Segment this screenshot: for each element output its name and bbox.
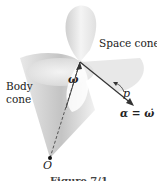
alpha-label: α = ω̇ — [120, 108, 154, 119]
space-cone-label: Space cone — [99, 38, 157, 49]
figure-caption: Figure 7/1 — [50, 176, 108, 181]
body-cone-label-line1: Body — [6, 81, 33, 92]
omega-label: ω — [68, 74, 78, 85]
body-cone-label-line2: cone — [6, 94, 31, 105]
p-label: p — [123, 88, 130, 99]
body-cone — [20, 53, 95, 158]
origin-label: O — [43, 160, 52, 171]
